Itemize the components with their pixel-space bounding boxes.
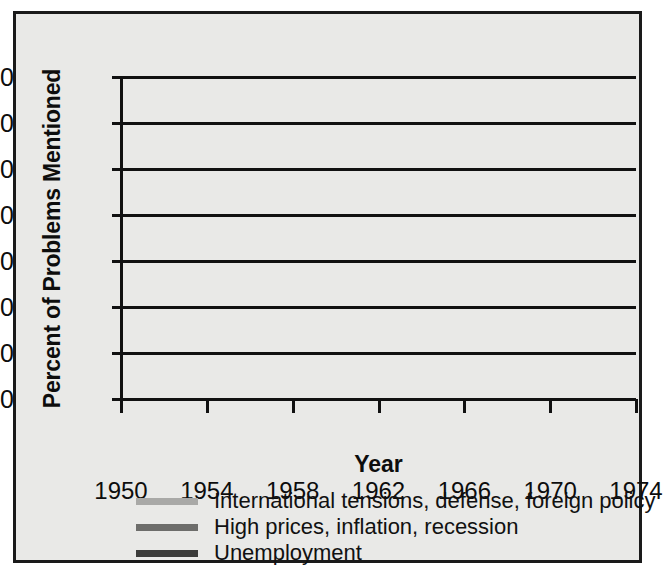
x-axis-tick [120, 399, 123, 413]
y-axis-tick [112, 260, 121, 263]
y-axis-tick-label: 0 [0, 385, 14, 414]
chart-legend: International tensions, defense, foreign… [136, 488, 606, 566]
plot-area: 010203040506070 195019541958196219661970… [121, 77, 636, 399]
y-axis-title: Percent of Problems Mentioned [36, 77, 70, 399]
gridline [121, 260, 636, 263]
y-axis-tick [112, 306, 121, 309]
gridline [121, 122, 636, 125]
gridline [121, 168, 636, 171]
y-axis-title-text: Percent of Problems Mentioned [40, 68, 67, 407]
x-axis-tick [463, 399, 466, 413]
legend-color-swatch [136, 550, 198, 557]
y-axis-tick-label: 40 [0, 201, 14, 230]
y-axis-tick-label: 10 [0, 339, 14, 368]
legend-label: High prices, inflation, recession [214, 516, 518, 538]
y-axis-tick-label: 50 [0, 155, 14, 184]
gridline [121, 214, 636, 217]
legend-color-swatch [136, 524, 198, 531]
x-axis-title: Year [121, 451, 636, 478]
x-axis-tick [206, 399, 209, 413]
gridline [121, 352, 636, 355]
legend-item: High prices, inflation, recession [136, 514, 606, 540]
x-axis-tick [635, 399, 638, 413]
legend-item: Unemployment [136, 540, 606, 566]
y-axis-tick [112, 352, 121, 355]
legend-label: Unemployment [214, 542, 362, 564]
x-axis-tick [378, 399, 381, 413]
x-axis-tick [549, 399, 552, 413]
y-axis-tick [112, 214, 121, 217]
x-axis-tick [292, 399, 295, 413]
chart-figure: Percent of Problems Mentioned 0102030405… [13, 11, 642, 563]
legend-color-swatch [136, 498, 198, 505]
y-axis-tick [112, 168, 121, 171]
legend-item: International tensions, defense, foreign… [136, 488, 606, 514]
y-axis-tick [112, 76, 121, 79]
y-axis-tick-label: 60 [0, 109, 14, 138]
y-axis-tick-label: 30 [0, 247, 14, 276]
y-axis-tick-label: 20 [0, 293, 14, 322]
y-axis-line [120, 77, 123, 399]
plot-background [121, 77, 636, 399]
legend-label: International tensions, defense, foreign… [214, 490, 656, 512]
gridline [121, 76, 636, 79]
y-axis-tick [112, 122, 121, 125]
y-axis-tick-label: 70 [0, 63, 14, 92]
gridline [121, 306, 636, 309]
